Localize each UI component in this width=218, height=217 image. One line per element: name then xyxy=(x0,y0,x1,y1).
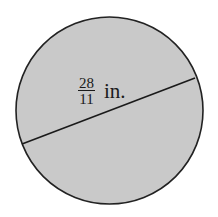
fraction-denominator: 11 xyxy=(79,91,93,106)
circle-diagram xyxy=(0,0,218,217)
diameter-fraction: 28 11 xyxy=(78,76,95,106)
fraction-numerator: 28 xyxy=(78,76,95,91)
diameter-unit: in. xyxy=(104,80,126,102)
